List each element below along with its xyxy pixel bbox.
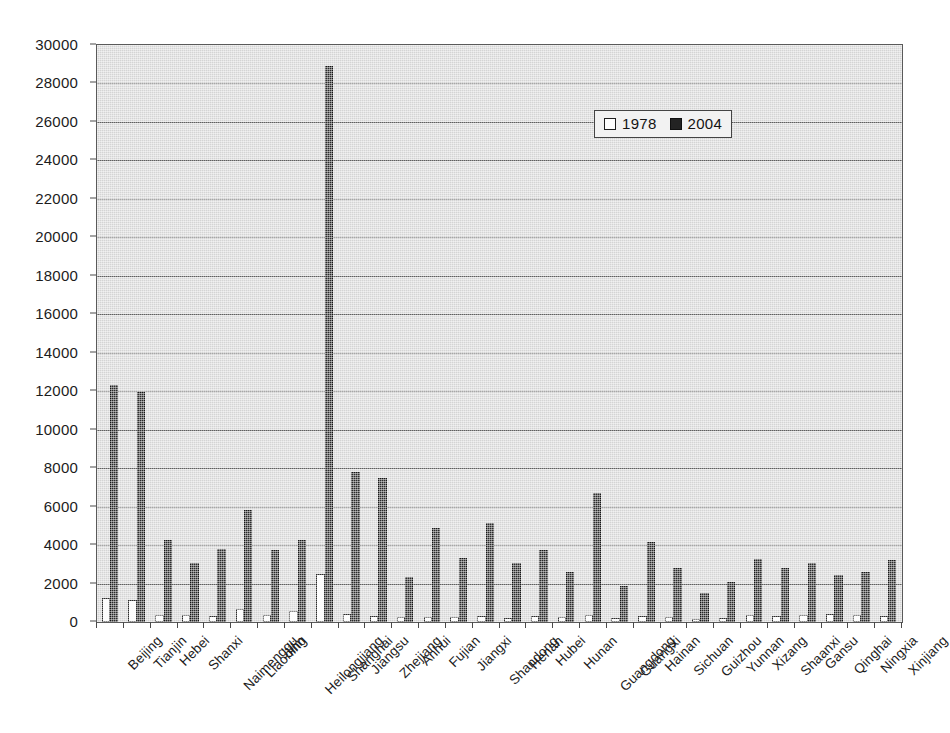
bar-guangdong-2004 bbox=[593, 493, 601, 622]
bar-group bbox=[231, 45, 258, 622]
bar-group bbox=[312, 45, 339, 622]
bar-group bbox=[97, 45, 124, 622]
x-axis-label-fujian: Fujian bbox=[446, 633, 483, 670]
bar-anhui-2004 bbox=[405, 577, 413, 622]
bar-anhui-1978 bbox=[397, 617, 405, 622]
x-tick-mark bbox=[633, 622, 634, 628]
x-axis-label-jiangxi: Jiangxi bbox=[474, 633, 515, 674]
y-tick-label: 18000 bbox=[35, 266, 78, 283]
bar-group bbox=[500, 45, 527, 622]
legend-entry-2004[interactable]: 2004 bbox=[670, 115, 723, 132]
bar-group bbox=[526, 45, 553, 622]
bar-guangxi-1978 bbox=[611, 618, 619, 622]
x-axis-label-heilongjiang: Heilongjiang bbox=[323, 633, 387, 697]
bar-yunnan-1978 bbox=[719, 618, 727, 622]
y-tick-label: 22000 bbox=[35, 189, 78, 206]
x-tick-mark bbox=[311, 622, 312, 628]
bar-group bbox=[365, 45, 392, 622]
bar-fujian-1978 bbox=[424, 617, 432, 622]
x-axis-label-xizang: Xizang bbox=[769, 633, 809, 673]
y-tick-label: 8000 bbox=[44, 459, 78, 476]
y-tick-label: 24000 bbox=[35, 151, 78, 168]
x-tick-mark bbox=[338, 622, 339, 628]
bar-shaanxi-2004 bbox=[781, 568, 789, 622]
x-axis-label-shaanxi: Shaanxi bbox=[798, 633, 844, 679]
y-tick-label: 6000 bbox=[44, 497, 78, 514]
bar-ningxia-1978 bbox=[853, 615, 861, 622]
bar-shandong-1978 bbox=[477, 616, 485, 622]
y-tick-label: 0 bbox=[69, 613, 78, 630]
bar-sichuan-1978 bbox=[665, 617, 673, 622]
x-tick-mark bbox=[364, 622, 365, 628]
x-axis-label-liaoning: Liaoning bbox=[262, 633, 309, 680]
x-tick-mark bbox=[740, 622, 741, 628]
x-axis-label-ningxia: Ningxia bbox=[877, 633, 920, 676]
x-tick-mark bbox=[203, 622, 204, 628]
x-tick-mark bbox=[660, 622, 661, 628]
legend-label-2004: 2004 bbox=[688, 115, 723, 132]
x-axis-label-hubei: Hubei bbox=[552, 633, 588, 669]
legend-swatch-1978-icon bbox=[604, 118, 616, 130]
bar-tianjin-2004 bbox=[137, 392, 145, 622]
x-tick-mark bbox=[713, 622, 714, 628]
bar-liaoning-2004 bbox=[244, 510, 252, 622]
x-axis-label-jiangsu: Jiangsu bbox=[368, 633, 412, 677]
bar-group bbox=[553, 45, 580, 622]
bar-shanxi-1978 bbox=[182, 615, 190, 622]
bar-hainan-1978 bbox=[638, 616, 646, 622]
bar-shandong-2004 bbox=[486, 523, 494, 622]
legend-entry-1978[interactable]: 1978 bbox=[604, 115, 657, 132]
x-axis-label-hunan: Hunan bbox=[581, 633, 620, 672]
bar-group bbox=[204, 45, 231, 622]
x-axis-label-naimenggu: Naimenggu bbox=[240, 633, 300, 693]
bar-xinjiang-2004 bbox=[888, 560, 896, 622]
x-axis-label-qinghai: Qinghai bbox=[851, 633, 895, 677]
y-tick-label: 2000 bbox=[44, 574, 78, 591]
x-axis-ticks bbox=[96, 622, 903, 629]
bar-jiangsu-2004 bbox=[351, 472, 359, 622]
x-axis-label-henan: Henan bbox=[527, 633, 566, 672]
x-tick-mark bbox=[257, 622, 258, 628]
bar-henan-1978 bbox=[504, 618, 512, 622]
bar-hainan-2004 bbox=[647, 542, 655, 622]
bar-group bbox=[848, 45, 875, 622]
x-axis-label-tianjin: Tianjin bbox=[151, 633, 190, 672]
bars-layer bbox=[97, 45, 902, 622]
x-axis-label-shandong: Shandong bbox=[507, 633, 562, 688]
x-axis-label-guangxi: Guangxi bbox=[637, 633, 684, 680]
x-axis-label-anhui: Anhui bbox=[418, 633, 453, 668]
bar-group bbox=[795, 45, 822, 622]
plot-area bbox=[96, 44, 903, 623]
y-tick-label: 20000 bbox=[35, 228, 78, 245]
bar-group bbox=[285, 45, 312, 622]
bar-qinghai-1978 bbox=[826, 614, 834, 622]
bar-group bbox=[875, 45, 902, 622]
y-tick-label: 4000 bbox=[44, 536, 78, 553]
bar-hunan-1978 bbox=[558, 617, 566, 622]
bar-guangdong-1978 bbox=[585, 615, 593, 622]
x-axis-label-shanghai: Shanghai bbox=[344, 633, 396, 685]
x-tick-mark bbox=[445, 622, 446, 628]
x-tick-mark bbox=[874, 622, 875, 628]
bar-xinjiang-1978 bbox=[880, 616, 888, 622]
chart-legend: 1978 2004 bbox=[594, 110, 732, 138]
bar-beijing-2004 bbox=[110, 385, 118, 622]
bar-tianjin-1978 bbox=[128, 600, 136, 622]
bar-shanghai-2004 bbox=[325, 66, 333, 622]
x-tick-mark bbox=[177, 622, 178, 628]
bar-xizang-2004 bbox=[754, 559, 762, 622]
bar-group bbox=[339, 45, 366, 622]
x-tick-mark bbox=[901, 622, 902, 628]
bar-naimenggu-2004 bbox=[217, 549, 225, 622]
bar-gansu-1978 bbox=[799, 615, 807, 622]
x-axis-label-jilin: Jilin bbox=[281, 633, 308, 660]
x-tick-mark bbox=[821, 622, 822, 628]
bar-guizhou-2004 bbox=[700, 593, 708, 622]
y-tick-label: 12000 bbox=[35, 382, 78, 399]
x-axis-label-gansu: Gansu bbox=[822, 633, 861, 672]
x-axis-label-beijing: Beijing bbox=[125, 633, 165, 673]
bar-liaoning-1978 bbox=[236, 609, 244, 622]
x-tick-mark bbox=[552, 622, 553, 628]
y-tick-label: 28000 bbox=[35, 74, 78, 91]
